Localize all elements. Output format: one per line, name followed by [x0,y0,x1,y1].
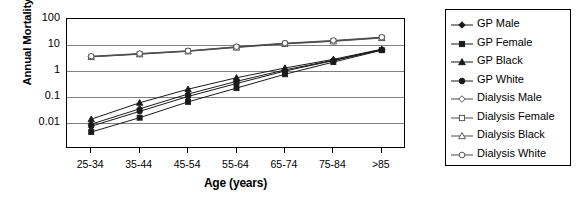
data-point-marker [137,115,142,120]
data-point-marker [234,44,239,49]
square-open-marker-icon [450,110,474,122]
x-axis-tick-marks [66,148,405,156]
legend-item-label: Dialysis White [477,147,546,159]
x-axis-tick-label: 65-74 [261,158,307,170]
y-axis-tick-label: 1 [16,64,60,75]
legend-item-label: Dialysis Male [477,91,542,103]
legend-item-label: Dialysis Black [477,128,545,140]
circle-filled-marker-icon [450,73,474,85]
x-axis-title: Age (years) [66,176,405,190]
legend-item-label: GP Black [477,54,523,66]
y-axis-tick-label: 0.01 [16,116,60,127]
legend-item-label: GP Female [477,36,532,48]
series-line [91,50,382,132]
legend-item: GP Female [450,33,570,52]
plot-area [66,18,405,148]
data-point-marker [331,38,336,43]
y-axis-tick-label: 10 [16,38,60,49]
data-point-marker [137,51,142,56]
x-axis-tick-label: 25-34 [67,158,113,170]
x-axis-tick-label: 55-64 [213,158,259,170]
data-point-marker [89,130,94,135]
data-point-marker [186,99,191,104]
data-point-marker [234,81,239,86]
x-axis-tick-label: 75-84 [309,158,355,170]
x-axis-tick-mark [236,148,237,153]
mortality-by-age-chart: Annual Mortality (%) 1001010.10.01 25-34… [0,0,580,202]
series-dialysis-white [89,34,385,58]
diamond-open-marker-icon [450,91,474,103]
x-axis-tick-label: 45-54 [164,158,210,170]
x-axis-tick-mark [332,148,333,153]
x-axis-tick-mark [90,148,91,153]
legend-item: GP White [450,70,570,89]
grid-and-series-layer [67,19,404,147]
data-point-marker [185,48,190,53]
triangle-open-marker-icon [450,128,474,140]
y-axis-tick-label: 0.1 [16,90,60,101]
legend-item-label: GP White [477,73,524,85]
x-axis-tick-mark [187,148,188,153]
legend-item: Dialysis Female [450,107,570,126]
x-axis-tick-mark [381,148,382,153]
data-point-marker [89,54,94,59]
data-point-marker [185,94,190,99]
x-axis-tick-mark [284,148,285,153]
data-point-marker [282,68,287,73]
legend-item: Dialysis Male [450,88,570,107]
legend-item: Dialysis White [450,144,570,163]
data-point-marker [379,34,384,39]
chart-legend: GP MaleGP FemaleGP BlackGP WhiteDialysis… [445,9,571,166]
triangle-filled-marker-icon [450,54,474,66]
legend-item-label: GP Male [477,17,520,29]
data-point-marker [379,47,384,52]
diamond-filled-marker-icon [450,17,474,29]
circle-open-marker-icon [450,147,474,159]
x-axis-tick-labels: 25-3435-4445-5455-6465-7475-84>85 [46,158,426,174]
y-axis-tick-label: 100 [16,12,60,23]
x-axis-tick-mark [139,148,140,153]
square-filled-marker-icon [450,36,474,48]
data-point-marker [282,40,287,45]
legend-item-label: Dialysis Female [477,110,555,122]
series-svg [67,19,406,149]
series-gp-female [89,48,385,135]
x-axis-tick-label: >85 [358,158,404,170]
legend-item: GP Black [450,51,570,70]
legend-item: GP Male [450,14,570,33]
data-point-marker [137,109,142,114]
legend-item: Dialysis Black [450,125,570,144]
data-point-marker [331,58,336,63]
data-point-marker [89,124,94,129]
x-axis-tick-label: 35-44 [116,158,162,170]
